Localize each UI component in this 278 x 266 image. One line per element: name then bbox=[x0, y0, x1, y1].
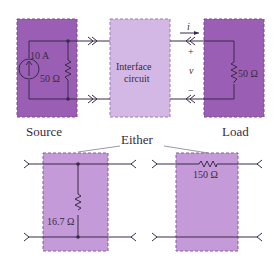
source-terminal-arrows bbox=[88, 37, 97, 103]
source-resistance-label: 50 Ω bbox=[40, 73, 60, 84]
minus-sign: − bbox=[188, 85, 194, 96]
current-arrow-icon bbox=[194, 31, 199, 35]
source-current-label: 10 A bbox=[30, 50, 50, 61]
series-resistance-label: 150 Ω bbox=[193, 169, 218, 180]
source-box bbox=[17, 19, 77, 117]
node-dot bbox=[76, 235, 80, 239]
source-label: Source bbox=[26, 124, 62, 139]
interface-line1: Interface bbox=[116, 61, 152, 72]
node-dot bbox=[76, 162, 80, 166]
shunt-resistance-label: 16.7 Ω bbox=[47, 216, 74, 227]
load-label: Load bbox=[222, 124, 249, 139]
series-option-box bbox=[176, 153, 238, 251]
either-pointer-lines bbox=[78, 146, 208, 153]
voltage-symbol: v bbox=[189, 65, 194, 76]
circuit-diagram: 10 A 50 Ω Interface circuit 50 Ω i + v −… bbox=[0, 0, 278, 266]
load-resistance-label: 50 Ω bbox=[238, 68, 258, 79]
node-dot bbox=[66, 97, 70, 101]
shunt-option-box bbox=[43, 153, 108, 251]
node-dot bbox=[66, 39, 70, 43]
interface-line2: circuit bbox=[124, 73, 150, 84]
current-symbol: i bbox=[187, 21, 190, 32]
plus-sign: + bbox=[188, 46, 194, 57]
either-label: Either bbox=[121, 132, 153, 147]
